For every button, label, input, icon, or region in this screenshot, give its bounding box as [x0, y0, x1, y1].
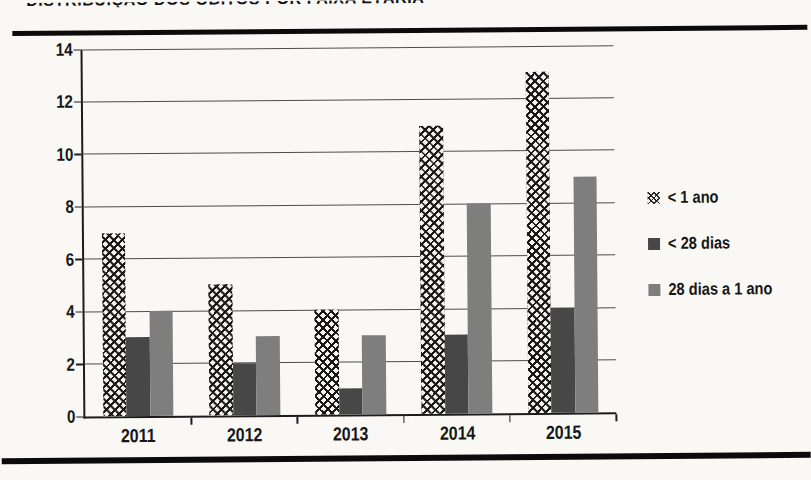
bar-2012-series3: [256, 336, 280, 415]
y-axis-tick-label-10: 10: [31, 144, 73, 164]
y-axis-tick-label-14: 14: [30, 40, 72, 60]
legend-label-text: < 1 ano: [668, 187, 719, 207]
y-axis-tick-label-text: 14: [56, 40, 73, 60]
y-axis-tick-label-text: 0: [67, 407, 76, 427]
scanned-page: DISTRIBUIÇÃO DOS ÓBITOS POR FAIXA ETÁRIA…: [0, 0, 811, 480]
y-axis-tick-label-text: 6: [66, 249, 75, 269]
x-axis-label-2014: 2014: [404, 423, 510, 444]
y-axis-tick-0: [76, 416, 83, 418]
y-axis-tick-14: [73, 49, 80, 51]
bar-2014-series1: [420, 125, 446, 414]
plot-area: 0246810121420112012201320142015: [80, 45, 616, 418]
legend-item-3: 28 dias a 1 ano: [648, 281, 789, 297]
x-axis-tick-3: [403, 416, 405, 423]
bar-2011-series3: [149, 311, 173, 416]
x-axis-tick-4: [509, 415, 511, 422]
gridline-14: [82, 45, 613, 50]
bar-2015-series3: [573, 177, 598, 413]
bar-2012-series1: [208, 284, 233, 415]
bar-2014-series2: [445, 335, 469, 414]
bar-2013-series2: [339, 388, 363, 414]
x-axis-tick-1: [191, 418, 193, 425]
y-axis-tick-label-text: 4: [66, 302, 75, 322]
bar-2011-series2: [126, 337, 150, 416]
x-axis-tick-5: [615, 414, 617, 421]
y-axis-tick-8: [75, 206, 82, 208]
legend-swatch-hatched-1: [648, 191, 660, 203]
x-axis-label-2012: 2012: [192, 425, 298, 446]
legend-swatch-solid-3: [648, 283, 660, 295]
y-axis-tick-12: [74, 101, 81, 103]
chart-legend: < 1 ano< 28 dias28 dias a 1 ano: [648, 189, 790, 328]
legend-item-2: < 28 dias: [648, 235, 789, 251]
legend-swatch-solid-2: [648, 237, 660, 249]
y-axis-tick-label-text: 2: [66, 354, 75, 374]
legend-label-1: < 1 ano: [668, 187, 727, 207]
y-axis-tick-label-text: 10: [56, 144, 73, 164]
x-axis-label-text: 2015: [546, 423, 582, 443]
bar-2012-series2: [233, 363, 257, 416]
bar-2015-series1: [525, 72, 551, 413]
cropped-heading: DISTRIBUIÇÃO DOS ÓBITOS POR FAIXA ETÁRIA: [26, 0, 446, 8]
x-axis-label-text: 2011: [121, 426, 156, 446]
x-axis-label-2011: 2011: [85, 426, 191, 447]
x-axis-label-2015: 2015: [510, 422, 616, 443]
y-axis-tick-label-4: 4: [32, 302, 74, 322]
bar-2014-series3: [467, 204, 492, 414]
bar-2015-series2: [551, 308, 575, 413]
bar-2013-series3: [362, 336, 386, 415]
cropped-heading-text: DISTRIBUIÇÃO DOS ÓBITOS POR FAIXA ETÁRIA: [26, 0, 446, 8]
x-axis-tick-2: [297, 417, 299, 424]
y-axis-tick-2: [76, 364, 83, 366]
legend-label-2: < 28 dias: [668, 233, 740, 254]
y-axis-tick-label-8: 8: [32, 197, 74, 217]
x-axis-label-2013: 2013: [298, 424, 404, 445]
bar-2013-series1: [315, 310, 339, 415]
y-axis-tick-label-0: 0: [33, 407, 75, 427]
legend-item-1: < 1 ano: [648, 189, 789, 205]
top-divider-rule: [12, 25, 807, 36]
y-axis-tick-6: [75, 259, 82, 261]
legend-label-text: < 28 dias: [668, 233, 730, 253]
y-axis-tick-label-6: 6: [32, 249, 74, 269]
y-axis-tick-label-text: 8: [65, 197, 74, 217]
y-axis-tick-label-12: 12: [31, 92, 73, 112]
legend-label-text: 28 dias a 1 ano: [668, 279, 772, 300]
x-axis-label-text: 2013: [333, 424, 369, 444]
bottom-divider-rule: [2, 452, 811, 464]
y-axis-tick-10: [74, 154, 81, 156]
y-axis-tick-4: [76, 311, 83, 313]
bar-2011-series1: [102, 233, 127, 417]
x-axis-label-text: 2012: [227, 425, 263, 445]
y-axis-tick-label-2: 2: [33, 354, 75, 374]
y-axis-tick-label-text: 12: [56, 92, 73, 112]
x-axis-label-text: 2014: [439, 423, 475, 443]
legend-label-3: 28 dias a 1 ano: [668, 278, 789, 299]
